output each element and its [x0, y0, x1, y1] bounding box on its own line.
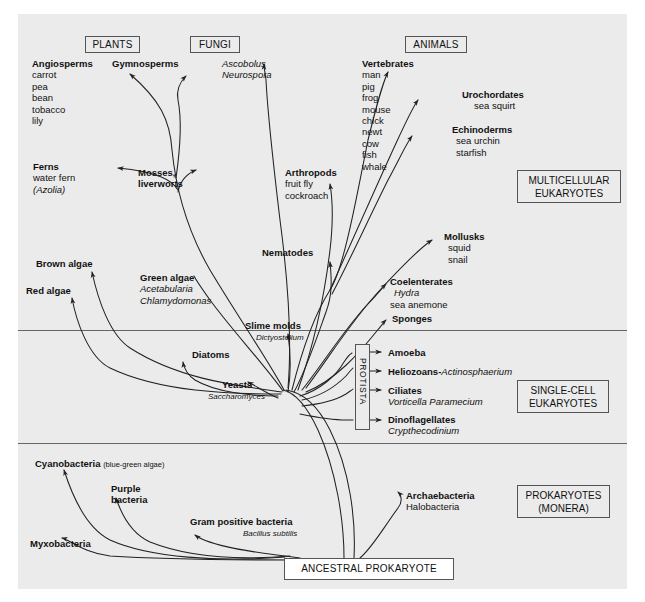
multicellular-eukaryotes-line2: EUKARYOTES — [524, 187, 614, 200]
taxon-amoeba: Amoeba — [388, 347, 425, 358]
taxon-diatoms: Diatoms — [192, 349, 229, 360]
taxon-vertebrates-example: cow — [362, 138, 414, 149]
taxon-urochordates: Urochordates sea squirt — [462, 89, 524, 112]
taxon-myxobacteria: Myxobacteria — [30, 538, 91, 549]
taxon-yeasts: Yeasts — [222, 379, 252, 390]
taxon-purple-bacteria-heading2: bacteria — [111, 494, 147, 505]
divider-eukaryote-prokaryote — [18, 443, 627, 444]
taxon-heliozoans: Heliozoans-Actinosphaerium — [388, 366, 512, 377]
prokaryotes-monera-line1: PROKARYOTES — [524, 489, 603, 502]
taxon-ascomycetes-genus: Ascobolus — [222, 58, 272, 69]
taxon-angiosperms-heading: Angiosperms — [32, 58, 93, 69]
taxon-green-algae-genus: Chlamydomonas — [140, 295, 211, 306]
taxon-angiosperms-example: carrot — [32, 69, 93, 80]
taxon-arthropods-heading: Arthropods — [285, 167, 337, 178]
taxon-angiosperms-example: bean — [32, 92, 93, 103]
single-cell-eukaryotes-box[interactable]: SINGLE-CELL EUKARYOTES — [517, 380, 609, 413]
taxon-ciliates-heading: Ciliates — [388, 385, 483, 396]
taxon-slime-molds-genus: Dictyostelium — [256, 332, 304, 343]
taxon-dinoflagellates-heading: Dinoflagellates — [388, 414, 459, 425]
taxon-angiosperms: Angiosperms carrot pea bean tobacco lily — [32, 58, 93, 126]
taxon-yeasts-genus: Saccharomyces — [208, 391, 265, 402]
taxon-urochordates-heading: Urochordates — [462, 89, 524, 100]
taxon-echinoderms-example: sea urchin — [452, 135, 512, 146]
taxon-vertebrates-example: whale — [362, 161, 414, 172]
taxon-green-algae: Green algae Acetabularia Chlamydomonas — [140, 272, 211, 306]
taxon-archaebacteria-heading: Archaebacteria — [406, 490, 475, 501]
taxon-mosses-heading: Mosses, — [138, 167, 183, 178]
taxon-echinoderms: Echinoderms sea urchin starfish — [452, 124, 512, 158]
taxon-arthropods: Arthropods fruit fly cockroach — [285, 167, 337, 201]
taxon-liverworts-heading: liverworts — [138, 178, 183, 189]
taxon-angiosperms-example: tobacco — [32, 104, 93, 115]
taxon-archaebacteria: Archaebacteria Halobacteria — [406, 490, 475, 513]
taxon-dinoflagellates: Dinoflagellates Crypthecodinium — [388, 414, 459, 437]
taxon-heliozoans-genus: Actinosphaerium — [441, 366, 512, 377]
taxon-gram-positive-bacteria: Gram positive bacteria — [190, 516, 292, 527]
taxon-cyanobacteria-note: (blue-green algae) — [103, 460, 164, 469]
protista-label: PROTISTA — [358, 358, 368, 405]
taxon-coelenterates-heading: Coelenterates — [390, 276, 453, 287]
taxon-mollusks-heading: Mollusks — [444, 231, 485, 242]
multicellular-eukaryotes-box[interactable]: MULTICELLULAR EUKARYOTES — [517, 170, 621, 203]
taxon-angiosperms-example: pea — [32, 81, 93, 92]
taxon-nematodes: Nematodes — [262, 247, 313, 258]
taxon-vertebrates: Vertebrates man pig frog mouse chick new… — [362, 58, 414, 172]
taxon-gymnosperms: Gymnosperms — [112, 58, 179, 69]
taxon-ascomycetes-genus: Neurospora — [222, 69, 272, 80]
taxon-cyanobacteria: Cyanobacteria (blue-green algae) — [35, 458, 164, 470]
ancestral-prokaryote-box[interactable]: ANCESTRAL PROKARYOTE — [284, 558, 454, 580]
taxon-vertebrates-example: mouse — [362, 104, 414, 115]
taxon-green-algae-heading: Green algae — [140, 272, 211, 283]
taxon-angiosperms-example: lily — [32, 115, 93, 126]
taxon-cyanobacteria-heading: Cyanobacteria — [35, 458, 100, 469]
taxon-echinoderms-example: starfish — [452, 147, 512, 158]
taxon-green-algae-genus: Acetabularia — [140, 283, 211, 294]
taxon-ferns-example: water fern — [33, 172, 75, 183]
taxon-coelenterates-genus: Hydra — [390, 287, 453, 298]
taxon-ferns-genus: (Azolia) — [33, 184, 75, 195]
taxon-coelenterates-example: sea anemone — [390, 299, 453, 310]
multicellular-eukaryotes-line1: MULTICELLULAR — [524, 174, 614, 187]
taxon-archaebacteria-example: Halobacteria — [406, 501, 475, 512]
taxon-coelenterates: Coelenterates Hydra sea anemone — [390, 276, 453, 310]
taxon-slime-molds: Slime molds — [245, 320, 301, 331]
single-cell-eukaryotes-line1: SINGLE-CELL — [524, 384, 602, 397]
plants-box[interactable]: PLANTS — [85, 36, 140, 53]
taxon-purple-bacteria-heading: Purple — [111, 483, 147, 494]
taxon-mollusks-example: squid — [444, 242, 485, 253]
single-cell-eukaryotes-line2: EUKARYOTES — [524, 397, 602, 410]
taxon-vertebrates-heading: Vertebrates — [362, 58, 414, 69]
taxon-vertebrates-example: man — [362, 69, 414, 80]
taxon-dinoflagellates-genus: Crypthecodinium — [388, 425, 459, 436]
taxon-heliozoans-heading: Heliozoans- — [388, 366, 441, 377]
taxon-vertebrates-example: newt — [362, 126, 414, 137]
animals-box[interactable]: ANIMALS — [405, 36, 467, 53]
taxon-vertebrates-example: chick — [362, 115, 414, 126]
taxon-vertebrates-example: fish — [362, 149, 414, 160]
taxon-arthropods-example: cockroach — [285, 190, 337, 201]
taxon-ascomycetes: Ascobolus Neurospora — [222, 58, 272, 81]
taxon-mosses-liverworts: Mosses, liverworts — [138, 167, 183, 190]
taxon-mollusks-example: snail — [444, 254, 485, 265]
taxon-gram-positive-bacteria-genus: Bacillus subtilis — [243, 528, 297, 539]
prokaryotes-monera-line2: (MONERA) — [524, 502, 603, 515]
taxon-ferns-heading: Ferns — [33, 161, 75, 172]
protista-box: PROTISTA — [355, 344, 370, 430]
taxon-purple-bacteria: Purple bacteria — [111, 483, 147, 506]
divider-multicellular-singlecell — [18, 330, 627, 331]
prokaryotes-monera-box[interactable]: PROKARYOTES (MONERA) — [517, 485, 610, 518]
taxon-ferns: Ferns water fern (Azolia) — [33, 161, 75, 195]
fungi-box[interactable]: FUNGI — [190, 36, 240, 53]
taxon-sponges: Sponges — [392, 313, 432, 324]
taxon-echinoderms-heading: Echinoderms — [452, 124, 512, 135]
taxon-vertebrates-example: frog — [362, 92, 414, 103]
taxon-mollusks: Mollusks squid snail — [444, 231, 485, 265]
taxon-brown-algae: Brown algae — [36, 258, 93, 269]
phylogenetic-tree-figure: PROTISTA PLANTS FUNGI ANIMALS MULTICELLU… — [0, 0, 645, 602]
taxon-urochordates-example: sea squirt — [462, 100, 524, 111]
taxon-ciliates: Ciliates Vorticella Paramecium — [388, 385, 483, 408]
taxon-red-algae: Red algae — [26, 285, 71, 296]
taxon-arthropods-example: fruit fly — [285, 178, 337, 189]
taxon-vertebrates-example: pig — [362, 81, 414, 92]
